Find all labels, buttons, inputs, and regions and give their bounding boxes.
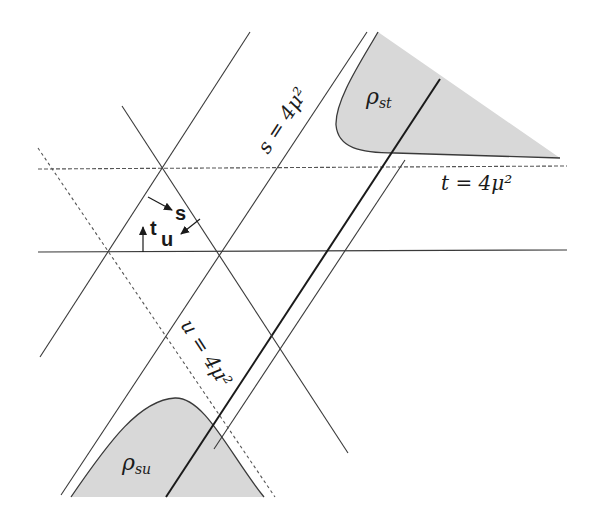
line-s-outer [214, 160, 405, 449]
region-rho-su [71, 398, 264, 497]
line-s-zero [40, 32, 250, 357]
label-rho-st-symbol: ρ [365, 84, 379, 109]
label-t-threshold: t = 4μ² [441, 171, 512, 195]
arrow-s-label: s [175, 202, 186, 224]
label-rho-su-symbol: ρ [121, 450, 135, 475]
diagram-svg: s t u s = 4μ² t = 4μ² u = 4μ² ρst ρsu [0, 0, 595, 525]
line-t-zero [38, 250, 567, 252]
label-u-threshold: u = 4μ² [176, 315, 238, 392]
label-rho-st-subscript: st [379, 95, 392, 111]
line-t-threshold [38, 166, 567, 169]
mandelstam-diagram: s t u s = 4μ² t = 4μ² u = 4μ² ρst ρsu [0, 0, 595, 525]
label-s-threshold: s = 4μ² [252, 83, 312, 158]
line-u-zero [122, 106, 348, 453]
arrow-s-icon [148, 197, 172, 210]
line-s-inner [166, 79, 440, 497]
arrow-t-label: t [150, 217, 157, 239]
arrow-u-label: u [161, 228, 173, 250]
label-rho-su-subscript: su [135, 461, 151, 477]
